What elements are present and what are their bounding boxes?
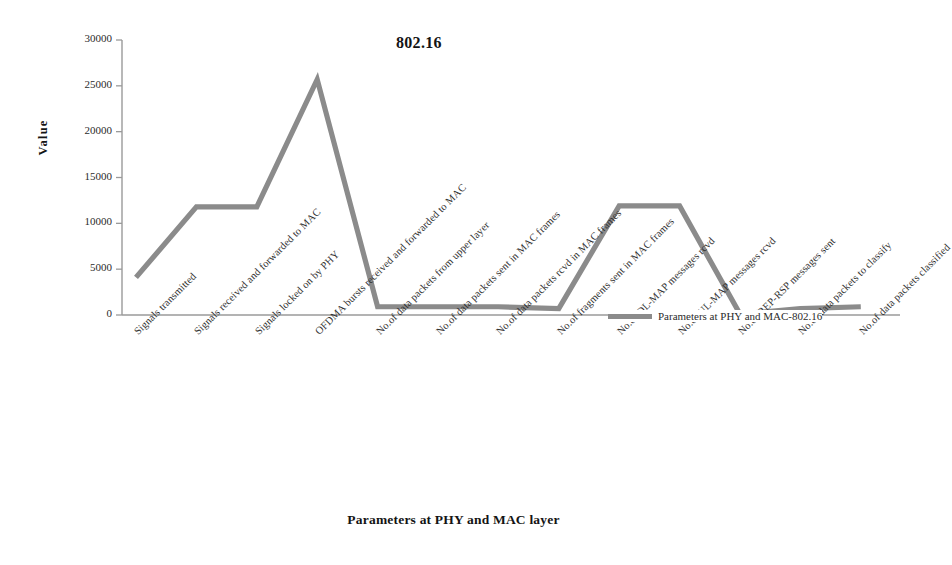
legend-label: Parameters at PHY and MAC-802.16 [658,310,822,322]
y-axis-tick-label: 5000 [60,261,112,273]
y-axis-tick-label: 15000 [60,170,112,182]
legend-line-swatch [608,314,652,319]
axes-group [116,40,900,315]
y-axis-tick-label: 0 [60,307,112,319]
data-line-series-0 [136,79,861,314]
data-series-group [136,79,861,314]
chart-legend: Parameters at PHY and MAC-802.16 [608,310,822,322]
y-axis-tick-label: 30000 [60,32,112,44]
y-axis-tick-label: 25000 [60,78,112,90]
y-axis-tick-label: 20000 [60,124,112,136]
x-axis-title: Parameters at PHY and MAC layer [0,512,907,528]
y-axis-tick-label: 10000 [60,215,112,227]
